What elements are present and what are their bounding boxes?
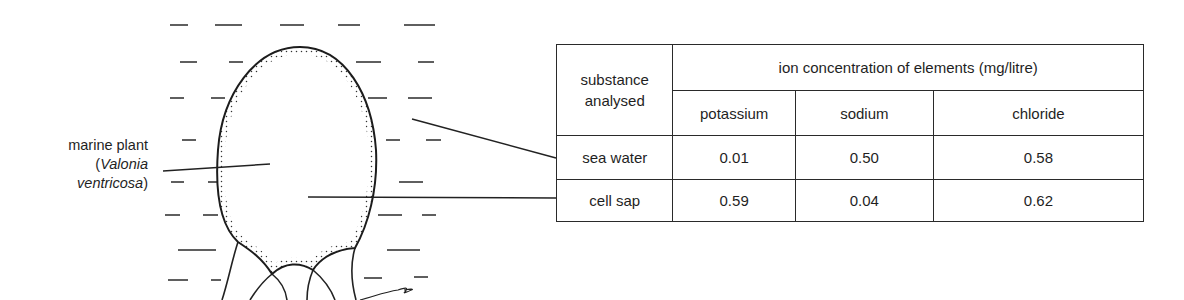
table-row: cell sap 0.59 0.04 0.62 [557,180,1144,222]
plant-label: marine plant (Valonia ventricosa) [40,136,148,193]
plant-label-genus-line: (Valonia [40,155,148,174]
column-header-potassium: potassium [673,91,795,136]
plant-label-species-line: ventricosa) [40,174,148,193]
ion-concentration-table: substance analysed ion concentration of … [556,44,1144,222]
cell-value: 0.59 [673,180,795,222]
cell-value: 0.01 [673,136,795,180]
table-row: sea water 0.01 0.50 0.58 [557,136,1144,180]
plant-cell [217,47,376,274]
column-header-sodium: sodium [795,91,933,136]
cell-value: 0.04 [795,180,933,222]
row-label-sea-water: sea water [557,136,673,180]
row-label-cell-sap: cell sap [557,180,673,222]
plant-label-species: ventricosa [77,175,143,191]
cell-value: 0.58 [933,136,1143,180]
plant-label-genus: Valonia [100,156,148,172]
group-header: ion concentration of elements (mg/litre) [673,45,1144,91]
sea-water-pointer [412,119,556,158]
row-header-title: substance analysed [557,45,673,136]
column-header-chloride: chloride [933,91,1143,136]
cell-value: 0.50 [795,136,933,180]
plant-label-common: marine plant [40,136,148,155]
cell-sap-pointer [308,197,556,198]
cell-value: 0.62 [933,180,1143,222]
